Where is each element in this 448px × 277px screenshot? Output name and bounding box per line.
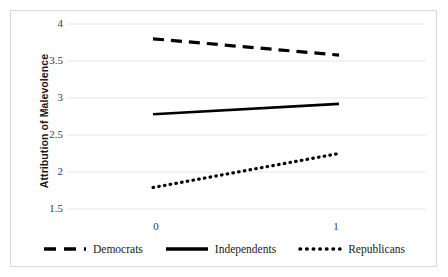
legend-label: Republicans bbox=[348, 243, 405, 255]
legend-swatch-solid-icon bbox=[165, 244, 209, 254]
legend-item-republicans[interactable]: Republicans bbox=[298, 243, 405, 255]
series-line-democrats bbox=[153, 39, 339, 55]
series-line-republicans bbox=[153, 154, 339, 188]
gridlines bbox=[67, 24, 426, 209]
chart-plot-frame: Attribution of Malevolence 4 3.5 3 2.5 2… bbox=[10, 10, 437, 267]
legend-label: Independents bbox=[215, 243, 276, 255]
legend-item-democrats[interactable]: Democrats bbox=[43, 243, 143, 255]
chart-figure: Attribution of Malevolence 4 3.5 3 2.5 2… bbox=[0, 0, 448, 277]
legend-swatch-dotted-icon bbox=[298, 244, 342, 254]
legend-label: Democrats bbox=[93, 243, 143, 255]
series-line-independents bbox=[153, 104, 339, 114]
legend-swatch-dashed-icon bbox=[43, 244, 87, 254]
chart-legend: Democrats Independents Republicans bbox=[0, 238, 448, 260]
chart-canvas bbox=[11, 11, 438, 268]
legend-item-independents[interactable]: Independents bbox=[165, 243, 276, 255]
